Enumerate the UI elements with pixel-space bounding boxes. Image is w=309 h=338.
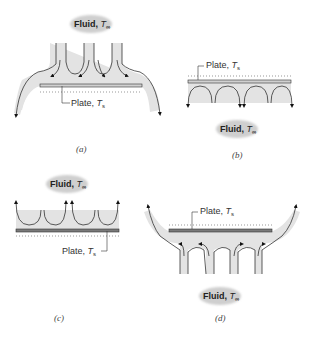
svg-text:Fluid, T∞: Fluid, T∞: [203, 291, 239, 302]
caption-b: (b): [232, 150, 243, 160]
caption-c: (c): [54, 313, 64, 323]
plate-label-d: Plate, Ts: [200, 206, 234, 217]
svg-text:Fluid, T∞: Fluid, T∞: [220, 124, 256, 135]
fluid-cloud-c: Fluid, T∞: [46, 175, 88, 193]
fluid-cloud-b: Fluid, T∞: [216, 120, 258, 138]
caption-d: (d): [215, 313, 226, 323]
panel-c: Fluid, T∞ Plate, Ts (c): [16, 175, 119, 323]
panel-b: Plate, Ts Fluid, T∞ (b): [188, 60, 292, 160]
plate-label-b: Plate, Ts: [206, 60, 240, 71]
panel-d: Plate, Ts Fluid, T∞ (d): [144, 206, 300, 323]
svg-text:Fluid, T∞: Fluid, T∞: [50, 179, 86, 190]
panel-a: Fluid, T∞ Plate, Ts (a): [14, 15, 160, 154]
plate-label-c: Plate, Ts: [62, 246, 96, 257]
plate-d: [169, 229, 272, 232]
plate-c: [16, 229, 119, 232]
plate-a: [40, 84, 142, 87]
plate-b: [188, 80, 291, 83]
fluid-cloud-d: Fluid, T∞: [199, 287, 241, 305]
caption-a: (a): [76, 144, 87, 154]
plate-label-a: Plate, Ts: [71, 98, 105, 109]
svg-text:Fluid, T∞: Fluid, T∞: [74, 19, 110, 30]
convection-diagram: Fluid, T∞ Plate, Ts (a): [0, 0, 309, 338]
fluid-cloud-a: Fluid, T∞: [70, 15, 112, 33]
